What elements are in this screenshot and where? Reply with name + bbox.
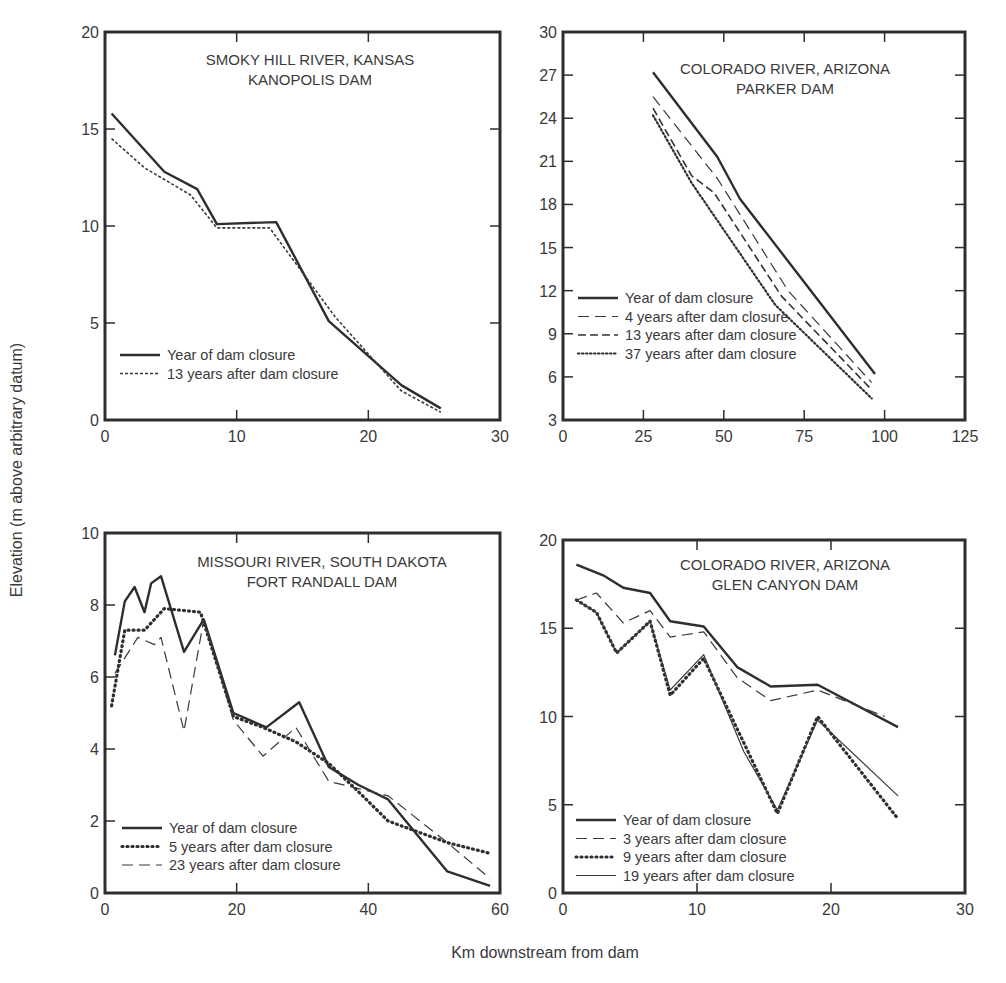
figure-svg: Elevation (m above arbitrary datum) Km d… — [0, 0, 1006, 983]
x-tick-label: 30 — [491, 428, 509, 445]
panel-subtitle: GLEN CANYON DAM — [712, 576, 859, 593]
plot-frame — [105, 32, 500, 420]
panel-glen-canyon: COLORADO RIVER, ARIZONA GLEN CANYON DAM … — [539, 532, 974, 918]
x-tick-label: 0 — [559, 901, 568, 918]
panel-title: COLORADO RIVER, ARIZONA — [680, 60, 890, 77]
x-tick-label: 40 — [359, 901, 377, 918]
x-tick-label: 0 — [101, 428, 110, 445]
x-tick-label: 125 — [952, 428, 979, 445]
legend-label: Year of dam closure — [167, 347, 295, 363]
legend-label: Year of dam closure — [169, 820, 297, 836]
x-tick-label: 0 — [559, 428, 568, 445]
panel-subtitle: FORT RANDALL DAM — [247, 573, 398, 590]
x-tick-label: 25 — [635, 428, 653, 445]
y-tick-label: 21 — [539, 153, 557, 170]
x-tick-label: 0 — [101, 901, 110, 918]
legend-label: 13 years after dam closure — [625, 327, 797, 343]
legend-label: 4 years after dam closure — [625, 309, 789, 325]
y-tick-label: 3 — [548, 412, 557, 429]
panel-title: MISSOURI RIVER, SOUTH DAKOTA — [197, 553, 447, 570]
legend-label: Year of dam closure — [625, 290, 753, 306]
x-tick-label: 30 — [956, 901, 974, 918]
series-line — [576, 600, 898, 810]
y-tick-label: 10 — [539, 709, 557, 726]
y-tick-label: 2 — [90, 813, 99, 830]
y-tick-label: 10 — [81, 525, 99, 542]
y-tick-label: 27 — [539, 67, 557, 84]
panel-fort-randall: MISSOURI RIVER, SOUTH DAKOTA FORT RANDAL… — [81, 525, 509, 918]
legend-label: 37 years after dam closure — [625, 346, 797, 362]
x-axis-label: Km downstream from dam — [451, 944, 639, 961]
x-tick-label: 20 — [822, 901, 840, 918]
x-tick-label: 100 — [871, 428, 898, 445]
legend-label: 23 years after dam closure — [169, 857, 341, 873]
y-tick-label: 0 — [90, 412, 99, 429]
legend-label: 13 years after dam closure — [167, 366, 339, 382]
y-tick-label: 18 — [539, 196, 557, 213]
figure: Elevation (m above arbitrary datum) Km d… — [0, 0, 1006, 983]
y-tick-label: 12 — [539, 283, 557, 300]
y-tick-label: 15 — [539, 620, 557, 637]
y-tick-label: 6 — [90, 669, 99, 686]
y-tick-label: 9 — [548, 326, 557, 343]
y-tick-label: 20 — [539, 532, 557, 549]
panel-parker-dam: COLORADO RIVER, ARIZONA PARKER DAM 36912… — [539, 24, 978, 445]
y-tick-label: 5 — [90, 315, 99, 332]
x-tick-label: 75 — [795, 428, 813, 445]
y-tick-label: 30 — [539, 24, 557, 41]
panel-title: SMOKY HILL RIVER, KANSAS — [206, 51, 414, 68]
x-tick-label: 10 — [228, 428, 246, 445]
series-line — [112, 114, 441, 409]
y-tick-label: 10 — [81, 218, 99, 235]
panel-smoky-hill: SMOKY HILL RIVER, KANSAS KANOPOLIS DAM 0… — [81, 24, 509, 445]
x-tick-label: 10 — [688, 901, 706, 918]
y-tick-label: 0 — [90, 885, 99, 902]
x-tick-label: 20 — [228, 901, 246, 918]
y-tick-label: 8 — [90, 597, 99, 614]
series-line — [576, 600, 898, 819]
x-tick-label: 60 — [491, 901, 509, 918]
series-line — [576, 593, 884, 717]
y-tick-label: 6 — [548, 369, 557, 386]
x-tick-label: 50 — [715, 428, 733, 445]
y-tick-label: 4 — [90, 741, 99, 758]
series-line — [112, 609, 491, 854]
panel-subtitle: PARKER DAM — [736, 80, 834, 97]
legend-label: 5 years after dam closure — [169, 839, 333, 855]
y-tick-label: 0 — [548, 885, 557, 902]
y-tick-label: 5 — [548, 797, 557, 814]
legend-label: 3 years after dam closure — [623, 831, 787, 847]
x-tick-label: 20 — [359, 428, 377, 445]
y-tick-label: 15 — [539, 240, 557, 257]
panel-subtitle: KANOPOLIS DAM — [248, 71, 372, 88]
legend-label: 9 years after dam closure — [623, 849, 787, 865]
y-tick-label: 24 — [539, 110, 557, 127]
legend-label: Year of dam closure — [623, 812, 751, 828]
y-tick-label: 15 — [81, 121, 99, 138]
y-axis-label: Elevation (m above arbitrary datum) — [8, 343, 25, 597]
y-tick-label: 20 — [81, 24, 99, 41]
legend-label: 19 years after dam closure — [623, 868, 795, 884]
panel-title: COLORADO RIVER, ARIZONA — [680, 556, 890, 573]
